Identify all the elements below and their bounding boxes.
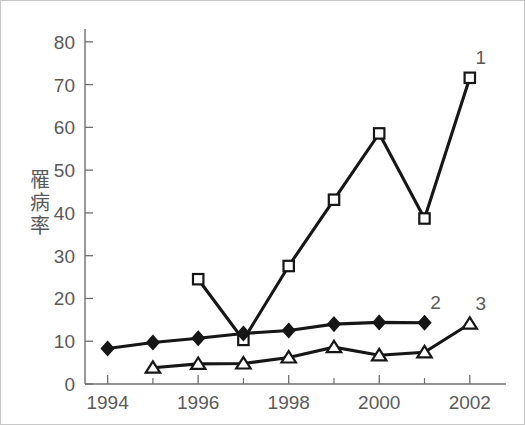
x-tick-label: 2000 [358,392,400,413]
marker-open-square [329,195,339,205]
y-tick-label: 40 [54,203,75,224]
x-tick-label: 2002 [449,392,491,413]
x-axis-tick-labels: 19941996199820002002 [86,392,490,413]
marker-filled-diamond [328,317,340,331]
y-tick-label: 60 [54,117,75,138]
series-label-3: 3 [476,293,487,314]
marker-filled-diamond [147,336,159,350]
x-axis-ticks [108,375,470,384]
marker-open-square [465,73,475,83]
series-line-1 [198,78,470,340]
marker-open-square [284,261,294,271]
x-tick-label: 1994 [86,392,129,413]
y-tick-label: 0 [64,374,75,395]
marker-filled-diamond [101,342,113,356]
series-markers-group [101,73,477,373]
series-label-1: 1 [476,47,487,68]
line-chart-plot: 01020304050607080 19941996199820002002 1… [1,1,525,425]
x-tick-label: 1996 [177,392,219,413]
y-tick-label: 80 [54,32,75,53]
y-tick-label: 20 [54,288,75,309]
x-tick-label: 1998 [268,392,310,413]
y-axis: 01020304050607080 [54,29,93,395]
y-axis-tick-labels: 01020304050607080 [54,32,75,395]
marker-filled-diamond [418,316,430,330]
y-tick-label: 70 [54,75,75,96]
marker-filled-diamond [283,324,295,338]
y-tick-label: 10 [54,331,75,352]
series-inline-labels: 123 [430,47,486,314]
marker-filled-diamond [373,315,385,329]
marker-filled-diamond [192,331,204,345]
y-axis-ticks [85,42,93,384]
marker-open-square [419,213,429,223]
marker-open-triangle [463,317,477,328]
x-axis: 19941996199820002002 [85,375,506,413]
series-label-2: 2 [430,292,441,313]
marker-open-square [193,274,203,284]
y-tick-label: 50 [54,160,75,181]
marker-open-triangle [327,341,341,352]
marker-open-square [374,128,384,138]
y-tick-label: 30 [54,246,75,267]
chart-figure: 罹 病 率 01020304050607080 1994199619982000… [0,0,525,425]
